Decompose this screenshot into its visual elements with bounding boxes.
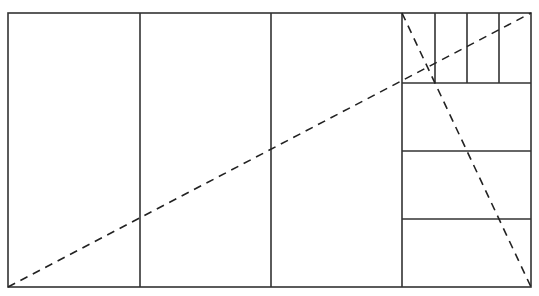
dashed-diagonals: [8, 13, 531, 287]
rectangle-subdivision-diagram: [0, 0, 539, 296]
main-diagonal: [8, 13, 531, 287]
